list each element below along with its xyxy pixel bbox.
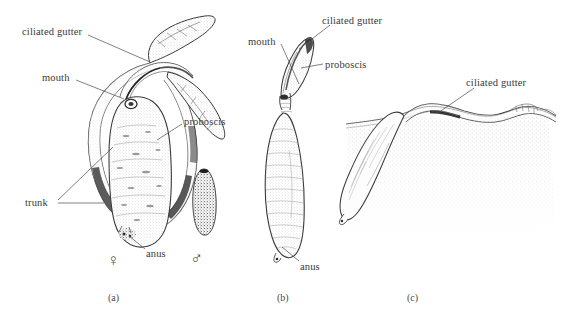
mouth-opening-b bbox=[280, 94, 288, 99]
caption-panel-b: (b) bbox=[277, 292, 289, 303]
label-ciliated-gutter-a: ciliated gutter bbox=[22, 27, 82, 38]
label-mouth-b: mouth bbox=[248, 37, 276, 48]
label-ciliated-gutter-c: ciliated gutter bbox=[466, 78, 526, 89]
panel-b-illustration bbox=[265, 25, 330, 262]
trunk-a bbox=[109, 97, 171, 247]
label-proboscis-b: proboscis bbox=[325, 60, 367, 71]
echiuran-figure: ciliated gutter mouth proboscis trunk an… bbox=[0, 0, 575, 319]
anus-b bbox=[274, 253, 281, 262]
label-ciliated-gutter-b: ciliated gutter bbox=[322, 16, 382, 27]
anus-a bbox=[118, 228, 136, 240]
label-anus-a: anus bbox=[146, 249, 166, 260]
label-proboscis-a: proboscis bbox=[184, 117, 226, 128]
caption-panel-a: (a) bbox=[108, 292, 119, 303]
label-mouth-a: mouth bbox=[42, 73, 70, 84]
trunk-b bbox=[265, 113, 304, 262]
female-symbol: ♀ bbox=[107, 252, 120, 269]
label-anus-b: anus bbox=[300, 262, 320, 273]
proboscis-b bbox=[279, 38, 314, 112]
caption-panel-c: (c) bbox=[407, 292, 418, 303]
figure-illustration bbox=[0, 0, 575, 319]
panel-c-illustration bbox=[339, 88, 558, 234]
panel-a-illustration bbox=[58, 16, 225, 249]
dwarf-male-a bbox=[193, 169, 216, 235]
male-symbol: ♂ bbox=[190, 250, 203, 267]
label-trunk-a: trunk bbox=[25, 198, 48, 209]
